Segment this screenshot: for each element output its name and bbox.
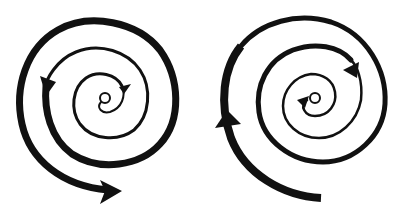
left-spiral-panel: Spiral winding outward counter-clockwise (0, 0, 201, 219)
left-spiral-icon (0, 0, 201, 219)
right-spiral-icon (201, 0, 402, 219)
right-spiral-panel: Spiral winding clockwise (201, 0, 402, 219)
